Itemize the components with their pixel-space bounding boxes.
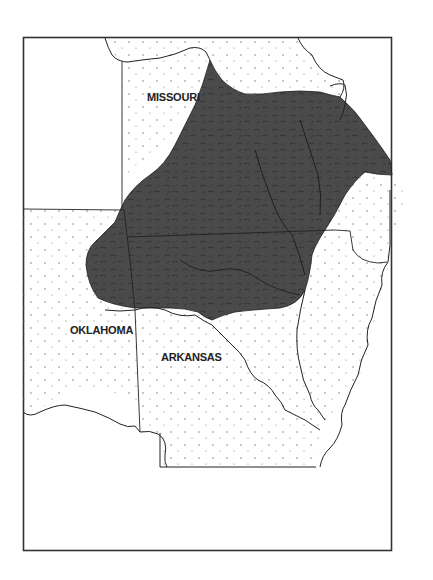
label-arkansas: ARKANSAS xyxy=(161,351,222,363)
map-canvas: MISSOURI OKLAHOMA ARKANSAS xyxy=(0,0,433,580)
label-missouri: MISSOURI xyxy=(147,91,200,103)
label-oklahoma: OKLAHOMA xyxy=(70,324,133,336)
